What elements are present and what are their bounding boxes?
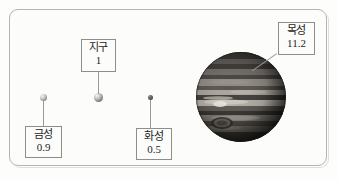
planet-image-jupiter [196,52,286,142]
callout-venus-name: 금성 [26,129,61,140]
callout-earth-value: 1 [82,55,115,66]
callout-mars-value: 0.5 [137,144,171,155]
callout-jupiter-value: 11.2 [279,38,314,49]
leader-line-earth [98,72,99,94]
leader-line-mars [150,100,151,128]
planet-sphere-venus [40,94,47,101]
planet-size-figure: 금성 0.9 지구 1 화성 0.5 [0,0,338,181]
callout-jupiter-name: 목성 [279,25,314,36]
callout-earth-name: 지구 [82,42,115,53]
leader-line-venus [43,101,44,126]
callout-jupiter: 목성 11.2 [278,22,315,55]
jupiter-banded-sphere [196,52,286,142]
callout-venus: 금성 0.9 [25,126,62,158]
callout-earth: 지구 1 [81,39,116,72]
callout-mars-name: 화성 [137,131,171,142]
planet-sphere-earth [94,93,103,102]
callout-mars: 화성 0.5 [136,128,172,160]
callout-venus-value: 0.9 [26,142,61,153]
